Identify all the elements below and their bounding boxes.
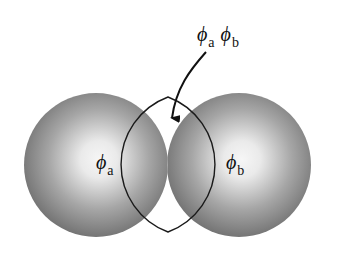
phi-symbol: ϕ <box>226 151 236 173</box>
subscript-a: a <box>208 35 214 50</box>
overlap-label: ϕa ϕb <box>197 24 239 44</box>
subscript-b: b <box>232 35 239 50</box>
phi-symbol: ϕ <box>96 151 106 173</box>
subscript-b: b <box>237 163 244 178</box>
phi-symbol: ϕ <box>221 23 231 45</box>
sphere-a-label: ϕa <box>96 152 114 172</box>
subscript-a: a <box>107 163 113 178</box>
phi-symbol: ϕ <box>197 23 207 45</box>
sphere-b-label: ϕb <box>226 152 244 172</box>
orbital-overlap-diagram <box>0 0 338 273</box>
